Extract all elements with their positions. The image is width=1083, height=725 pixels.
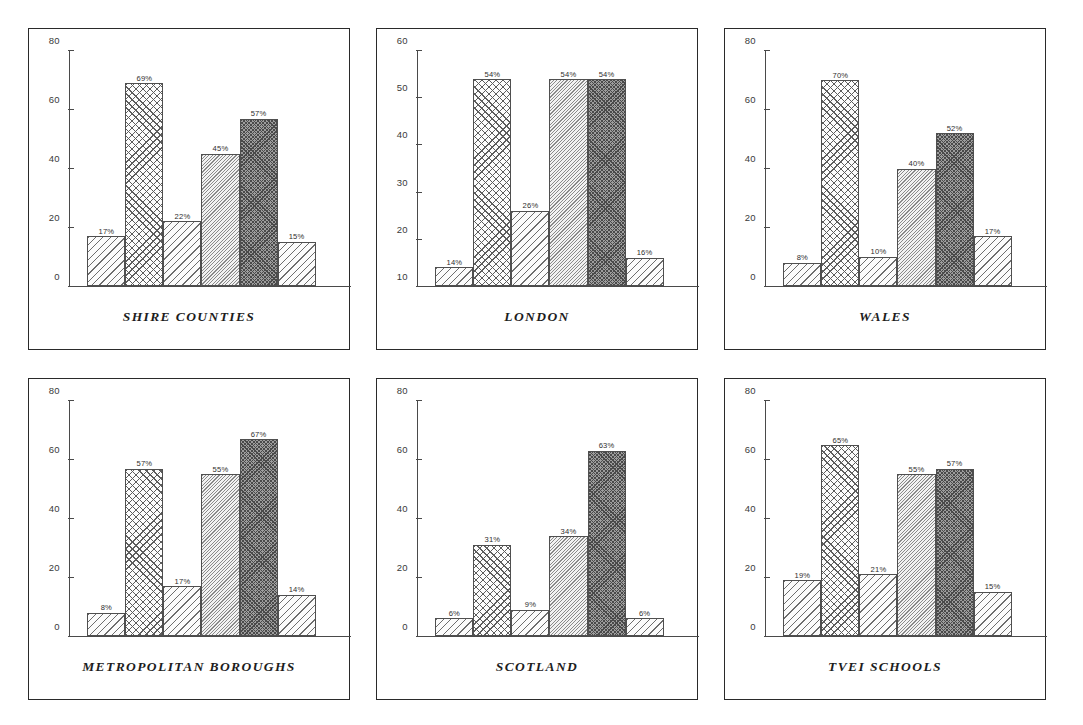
plot-area: 0204060808%57%17%55%67%14% [69,401,337,637]
y-axis-tick [416,636,422,637]
chart-panel: 0204060806%31%9%34%63%6%SCOTLAND [376,378,698,700]
x-axis-mid-tick [201,279,202,286]
bar-value-label: 17% [98,227,114,236]
y-axis-tick-label: 60 [397,35,408,46]
bar: 15% [278,242,316,286]
bar-value-label: 6% [449,609,460,618]
y-axis-tick-label: 20 [49,562,60,573]
y-axis-tick-label: 0 [54,621,60,632]
y-axis-tick-label: 20 [745,212,756,223]
bar: 40% [897,169,935,287]
bar: 16% [626,258,664,286]
plot-area: 02040608019%65%21%55%57%15% [765,401,1033,637]
chart-panel: 02040608019%65%21%55%57%15%TVEI SCHOOLS [724,378,1046,700]
y-axis-tick-label: 0 [750,621,756,632]
x-axis-line [765,636,1047,637]
y-axis-tick-label: 0 [54,271,60,282]
x-axis-mid-tick [201,629,202,636]
bar-value-label: 55% [909,465,925,474]
bar: 22% [163,221,201,286]
bar: 67% [240,439,278,636]
bar-series: 14%54%26%54%54%16% [418,51,685,286]
bar: 69% [125,83,163,286]
chart-panel: 0204060808%70%10%40%52%17%WALES [724,28,1046,350]
y-axis-tick-label: 80 [49,35,60,46]
panel-title: SHIRE COUNTIES [29,309,349,325]
x-axis-mid-tick [549,629,550,636]
bar: 26% [511,211,549,286]
bar: 57% [240,119,278,286]
y-axis-tick [764,286,770,287]
y-axis-tick-label: 20 [397,223,408,234]
bar-value-label: 52% [947,124,963,133]
y-axis-tick-label: 40 [397,129,408,140]
bar: 54% [588,79,626,286]
x-axis-line [69,636,351,637]
bar: 34% [549,536,587,636]
y-axis-tick-label: 60 [745,444,756,455]
bar: 57% [125,469,163,636]
y-axis-tick-label: 80 [745,385,756,396]
y-axis-tick-label: 80 [745,35,756,46]
bar-value-label: 57% [947,459,963,468]
bar-value-label: 19% [794,571,810,580]
bar-value-label: 16% [637,248,653,257]
bar-value-label: 34% [561,527,577,536]
bar-series: 8%70%10%40%52%17% [766,51,1033,286]
bar-value-label: 45% [213,144,229,153]
y-axis-tick-label: 40 [745,503,756,514]
chart-panel: 02040608017%69%22%45%57%15%SHIRE COUNTIE… [28,28,350,350]
bar: 52% [936,133,974,286]
y-axis-tick-label: 10 [397,271,408,282]
bar: 21% [859,574,897,636]
y-axis-tick-label: 40 [49,503,60,514]
bar-value-label: 40% [909,159,925,168]
y-axis-tick-label: 0 [750,271,756,282]
y-axis-tick-label: 40 [49,153,60,164]
y-axis-tick-label: 20 [49,212,60,223]
y-axis-tick-label: 60 [397,444,408,455]
bar-value-label: 65% [833,436,849,445]
y-axis-tick-label: 60 [745,94,756,105]
y-axis-tick-label: 30 [397,176,408,187]
bar-value-label: 8% [797,253,808,262]
bar: 31% [473,545,511,636]
y-axis-tick [764,636,770,637]
bar: 15% [974,592,1012,636]
bar-value-label: 57% [137,459,153,468]
panel-title: TVEI SCHOOLS [725,659,1045,675]
bar: 6% [435,618,473,636]
bar-value-label: 63% [599,441,615,450]
bar-value-label: 15% [289,232,305,241]
plot-area: 0204060806%31%9%34%63%6% [417,401,685,637]
figure-sheet: 02040608017%69%22%45%57%15%SHIRE COUNTIE… [0,0,1083,725]
y-axis-tick-label: 40 [397,503,408,514]
bar-value-label: 54% [561,70,577,79]
bar: 8% [783,263,821,287]
bar-series: 6%31%9%34%63%6% [418,401,685,636]
y-axis-tick-label: 80 [397,385,408,396]
bar-value-label: 70% [833,71,849,80]
bar: 54% [473,79,511,286]
x-axis-line [69,286,351,287]
panel-title: WALES [725,309,1045,325]
x-axis-line [765,286,1047,287]
bar: 70% [821,80,859,286]
y-axis-tick-label: 40 [745,153,756,164]
bar: 17% [163,586,201,636]
plot-area: 10203040506014%54%26%54%54%16% [417,51,685,287]
bar-series: 17%69%22%45%57%15% [70,51,337,286]
x-axis-line [417,636,699,637]
chart-panel: 0204060808%57%17%55%67%14%METROPOLITAN B… [28,378,350,700]
panel-title: SCOTLAND [377,659,697,675]
bar: 57% [936,469,974,636]
bar: 14% [435,267,473,286]
x-axis-mid-tick [897,279,898,286]
bar-value-label: 14% [289,585,305,594]
bar: 45% [201,154,239,286]
bar: 54% [549,79,587,286]
bar-value-label: 17% [175,577,191,586]
plot-area: 0204060808%70%10%40%52%17% [765,51,1033,287]
bar-series: 19%65%21%55%57%15% [766,401,1033,636]
bar-value-label: 69% [137,74,153,83]
